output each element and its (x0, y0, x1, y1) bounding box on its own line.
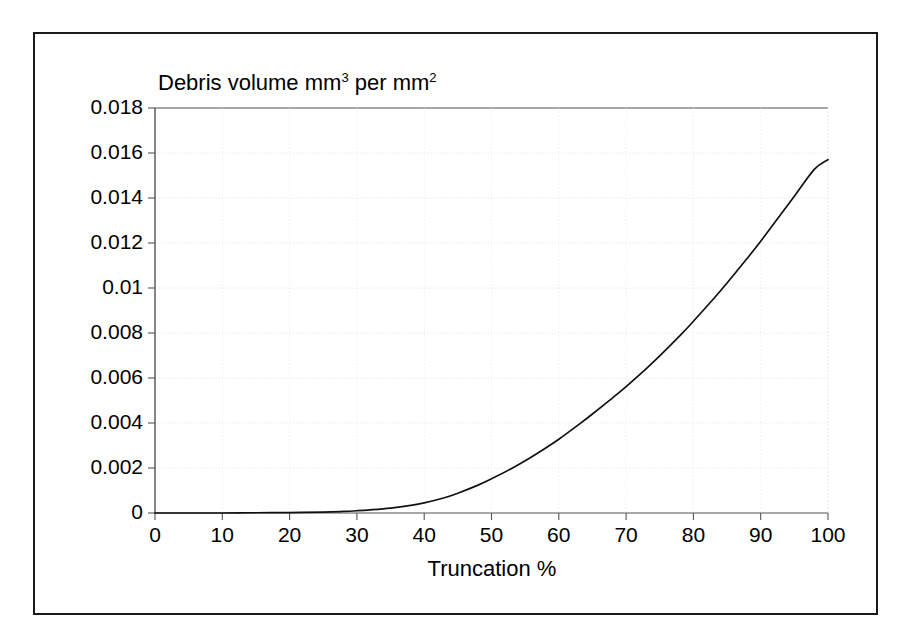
y-tick-label: 0.008 (90, 320, 143, 343)
y-tick-label: 0.016 (90, 140, 143, 163)
x-axis-tick-marks (155, 513, 828, 520)
x-axis-tick-labels: 0102030405060708090100 (149, 523, 845, 546)
x-axis-title: Truncation % (428, 556, 557, 581)
x-tick-label: 50 (480, 523, 503, 546)
vertical-gridlines (222, 108, 828, 513)
y-tick-label: 0.018 (90, 95, 143, 118)
x-tick-label: 70 (614, 523, 637, 546)
x-tick-label: 90 (749, 523, 772, 546)
chart-title-base2: per mm (349, 70, 430, 95)
chart-title-superscript-3: 3 (341, 70, 348, 85)
x-tick-label: 30 (345, 523, 368, 546)
x-tick-label: 80 (682, 523, 705, 546)
y-tick-label: 0.006 (90, 365, 143, 388)
x-tick-label: 100 (810, 523, 845, 546)
x-tick-label: 20 (278, 523, 301, 546)
chart-title: Debris volume mm3 per mm2 (158, 70, 437, 95)
y-tick-label: 0.004 (90, 410, 143, 433)
y-tick-label: 0.01 (102, 275, 143, 298)
y-tick-label: 0 (131, 500, 143, 523)
y-tick-label: 0.012 (90, 230, 143, 253)
y-axis-tick-labels: 00.0020.0040.0060.0080.010.0120.0140.016… (90, 95, 143, 523)
x-tick-label: 60 (547, 523, 570, 546)
x-tick-label: 40 (413, 523, 436, 546)
chart-title-base1: Debris volume mm (158, 70, 341, 95)
x-tick-label: 0 (149, 523, 161, 546)
y-axis-tick-marks (148, 108, 155, 513)
chart-canvas: 00.0020.0040.0060.0080.010.0120.0140.016… (0, 0, 910, 635)
y-tick-label: 0.002 (90, 455, 143, 478)
y-tick-label: 0.014 (90, 185, 143, 208)
x-tick-label: 10 (211, 523, 234, 546)
chart-title-superscript-2: 2 (429, 70, 436, 85)
